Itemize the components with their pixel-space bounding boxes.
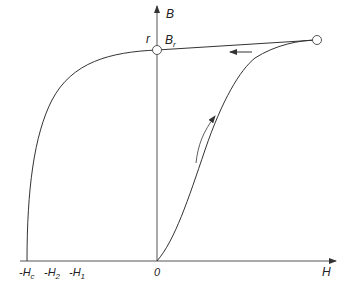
neg-hc-main: -H: [19, 266, 31, 278]
br-sub: r: [173, 40, 176, 49]
neg-h1-sub: 1: [81, 272, 85, 281]
neg-h1-label: -H1: [69, 266, 85, 281]
neg-h2-sub: 2: [55, 272, 61, 281]
recoil-line: [157, 40, 317, 50]
br-label: Br: [165, 33, 176, 49]
initial-magnetization-curve: [157, 40, 317, 261]
neg-hc-label: -Hc: [19, 266, 35, 281]
b-axis-label: B: [166, 7, 174, 21]
br-point-marker: [153, 46, 162, 55]
r-label: r: [146, 32, 151, 46]
neg-h2-main: -H: [44, 266, 56, 278]
diagram-canvas: B r Br -Hc -H2 -H1 0 H: [0, 0, 351, 292]
origin-label: 0: [154, 266, 161, 278]
neg-h1-main: -H: [69, 266, 81, 278]
neg-h2-label: -H2: [44, 266, 61, 281]
saturation-point-marker: [313, 36, 322, 45]
br-main: B: [165, 33, 173, 47]
bh-curve-diagram: B r Br -Hc -H2 -H1 0 H: [0, 0, 351, 292]
upward-curved-arrow-icon: [196, 116, 215, 163]
h-axis-label: H: [322, 265, 331, 279]
neg-hc-sub: c: [31, 272, 35, 281]
demagnetization-curve: [27, 50, 157, 261]
